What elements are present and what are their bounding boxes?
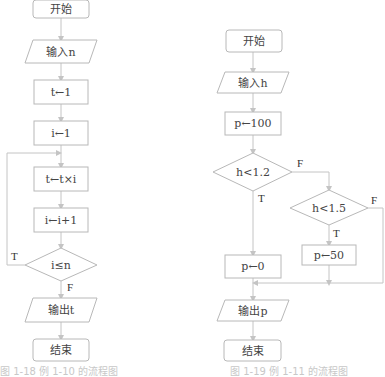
true-branch-label: T (258, 192, 265, 204)
connector (292, 172, 329, 189)
end-label: 结束 (242, 345, 264, 358)
process-label: p←0 (241, 260, 264, 273)
left-flowchart: 开始 输入n t←1 i←1 t←t×i i←i+1 i≤n T F 输出t 结… (0, 0, 118, 377)
start-label: 开始 (50, 2, 72, 16)
process-label: i←1 (51, 127, 71, 140)
right-flowchart: 开始 输入h p←100 h<1.2 F T h<1.5 F T p←0 p←5… (213, 30, 383, 377)
input-label: 输入h (238, 76, 267, 90)
process-label: t←1 (51, 86, 72, 99)
decision-label: h<1.2 (236, 166, 270, 179)
start-label: 开始 (243, 34, 265, 48)
process-label: p←50 (314, 249, 344, 262)
false-branch-label: F (297, 157, 303, 169)
caption: 图 1-19 例 1-11 的流程图 (230, 365, 348, 377)
input-label: 输入n (46, 45, 75, 59)
false-branch-label: F (67, 281, 73, 293)
process-label: p←100 (234, 117, 271, 130)
decision-label: h<1.5 (312, 202, 346, 215)
end-label: 结束 (50, 344, 72, 357)
true-branch-label: T (11, 250, 18, 262)
true-branch-label: T (333, 227, 340, 239)
false-branch-label: F (371, 194, 377, 206)
output-label: 输出p (238, 304, 267, 318)
output-label: 输出t (48, 303, 75, 317)
process-label: t←t×i (46, 173, 77, 186)
caption: 图 1-18 例 1-10 的流程图 (0, 365, 118, 377)
decision-label: i≤n (51, 259, 71, 272)
flowchart-canvas: 开始 输入n t←1 i←1 t←t×i i←i+1 i≤n T F 输出t 结… (0, 0, 385, 377)
process-label: i←i+1 (45, 214, 77, 227)
